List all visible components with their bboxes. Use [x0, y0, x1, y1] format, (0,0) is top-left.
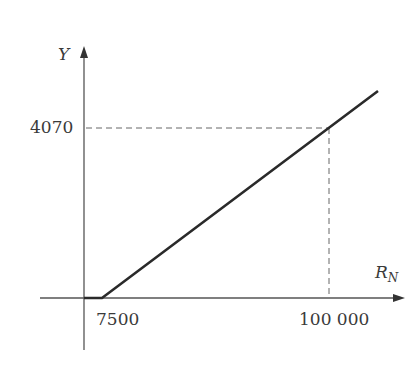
data-line — [84, 91, 378, 298]
x-axis-label-sub: N — [388, 271, 399, 285]
y-axis-label: Y — [58, 44, 69, 64]
y-tick-label: 4070 — [30, 117, 73, 137]
x-axis-label-main: R — [375, 262, 388, 282]
x-tick-label-100000: 100 000 — [299, 309, 369, 329]
x-axis-label: RN — [375, 262, 398, 285]
x-tick-label-7500: 7500 — [96, 309, 139, 329]
x-axis-arrow-icon — [393, 294, 405, 302]
y-axis-arrow-icon — [80, 46, 88, 58]
